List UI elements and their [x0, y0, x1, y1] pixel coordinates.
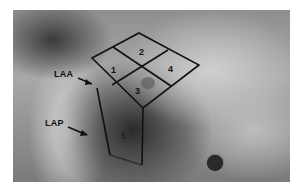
region-label-5: 5 [121, 131, 126, 141]
laa-label: LAA [54, 69, 73, 79]
lap-label: LAP [45, 118, 64, 128]
region-label-4: 4 [168, 64, 173, 74]
chest-photo: 1 2 3 4 5 LAA LAP [13, 10, 290, 182]
grid-overlay [13, 10, 290, 182]
region-label-3: 3 [135, 86, 140, 96]
region-label-2: 2 [139, 47, 144, 57]
region-label-1: 1 [111, 65, 116, 75]
watch-icon [206, 154, 224, 172]
